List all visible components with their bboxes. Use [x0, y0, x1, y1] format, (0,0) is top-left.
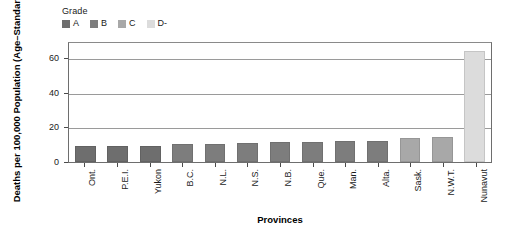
- bar-alta: [367, 141, 388, 162]
- bar-bc: [172, 144, 193, 162]
- bar-slot: [361, 43, 393, 162]
- x-axis-tick-mark: [410, 163, 411, 167]
- legend-swatch-icon: [118, 20, 126, 28]
- legend-item-label: C: [129, 19, 136, 28]
- bar-slot: [199, 43, 231, 162]
- x-axis-tick-mark: [182, 163, 183, 167]
- bar-nunavut: [464, 51, 485, 162]
- x-axis-tick-mark: [150, 163, 151, 167]
- bar-slot: [101, 43, 133, 162]
- legend-swatch-icon: [147, 20, 155, 28]
- x-axis-tick-label: N.S.: [251, 169, 260, 187]
- bar-pei: [107, 146, 128, 162]
- bar-ont: [75, 146, 96, 162]
- x-axis-label-slot: N.S.: [231, 169, 264, 211]
- x-axis-tick-label: Que.: [317, 169, 326, 189]
- legend-swatch-icon: [62, 20, 70, 28]
- bar-sask: [400, 138, 421, 162]
- x-axis-tick-label: Alta.: [382, 169, 391, 187]
- x-axis-tick-mark: [247, 163, 248, 167]
- x-axis-label-slot: Man.: [329, 169, 362, 211]
- x-axis-tick-mark: [313, 163, 314, 167]
- x-axis-title: Provinces: [68, 214, 492, 225]
- bar-man: [335, 141, 356, 162]
- x-axis-tick-label: N.L.: [219, 169, 228, 186]
- x-axis-tick-label: P.E.I.: [121, 169, 130, 190]
- y-axis-tick-label: 40: [37, 89, 59, 98]
- chart-figure: Grade ABCD- Deaths per 100,000 Populatio…: [0, 0, 511, 238]
- y-axis-title: Deaths per 100,000 Population (Age–Stand…: [12, 0, 23, 202]
- y-axis-tick-label: 20: [37, 123, 59, 132]
- x-axis-tick-mark: [443, 163, 444, 167]
- x-axis-tick-mark: [476, 163, 477, 167]
- legend-item-b: B: [90, 19, 107, 28]
- x-axis-label-slot: P.E.I.: [101, 169, 134, 211]
- x-axis-label-slot: Que.: [296, 169, 329, 211]
- bar-slot: [69, 43, 101, 162]
- legend-item-c: C: [118, 19, 136, 28]
- x-axis-label-slot: Ont.: [68, 169, 101, 211]
- bar-yukon: [140, 146, 161, 162]
- bar-nb: [270, 142, 291, 162]
- bar-nwt: [432, 137, 453, 162]
- bar-slot: [134, 43, 166, 162]
- bar-slot: [426, 43, 458, 162]
- y-axis-tick-label: 0: [37, 158, 59, 167]
- legend-swatch-icon: [90, 20, 98, 28]
- x-axis-tick-mark: [345, 163, 346, 167]
- x-axis-label-slot: N.B.: [264, 169, 297, 211]
- x-axis-tick-mark: [378, 163, 379, 167]
- x-axis-tick-label: N.B.: [284, 169, 293, 187]
- x-axis-label-slot: N.L.: [198, 169, 231, 211]
- x-axis-tick-label: Nunavut: [480, 169, 489, 203]
- x-axis-label-slot: B.C.: [166, 169, 199, 211]
- x-axis-label-slot: Yukon: [133, 169, 166, 211]
- legend-items: ABCD-: [62, 19, 302, 28]
- bar-nl: [205, 144, 226, 162]
- plot-area: [68, 42, 492, 163]
- x-axis-label-slot: Sask.: [394, 169, 427, 211]
- bar-slot: [231, 43, 263, 162]
- bar-que: [302, 142, 323, 162]
- x-axis-tick-label: Yukon: [154, 169, 163, 194]
- bar-slot: [394, 43, 426, 162]
- x-axis-label-slot: Nunavut: [459, 169, 492, 211]
- bar-slot: [264, 43, 296, 162]
- bar-ns: [237, 143, 258, 162]
- x-axis-tick-labels: Ont.P.E.I.YukonB.C.N.L.N.S.N.B.Que.Man.A…: [68, 169, 492, 211]
- legend-item-label: D-: [158, 19, 168, 28]
- bar-slot: [459, 43, 491, 162]
- legend-title: Grade: [62, 6, 302, 17]
- x-axis-tick-mark: [84, 163, 85, 167]
- chart-legend: Grade ABCD-: [62, 6, 302, 28]
- x-axis-label-slot: N.W.T.: [427, 169, 460, 211]
- x-axis-tick-label: N.W.T.: [447, 169, 456, 196]
- y-axis-title-container: Deaths per 100,000 Population (Age–Stand…: [0, 0, 34, 175]
- x-axis-tick-label: Man.: [349, 169, 358, 189]
- legend-item-label: A: [73, 19, 79, 28]
- bar-series: [69, 43, 491, 162]
- x-axis-tick-label: B.C.: [186, 169, 195, 187]
- x-axis-label-slot: Alta.: [361, 169, 394, 211]
- bar-slot: [296, 43, 328, 162]
- legend-item-d: D-: [147, 19, 168, 28]
- x-axis-tick-label: Ont.: [88, 169, 97, 186]
- x-axis-tick-label: Sask.: [414, 169, 423, 192]
- x-axis-tick-mark: [117, 163, 118, 167]
- bar-slot: [329, 43, 361, 162]
- bar-slot: [166, 43, 198, 162]
- x-axis-tick-mark: [215, 163, 216, 167]
- x-axis-tick-mark: [280, 163, 281, 167]
- legend-item-a: A: [62, 19, 79, 28]
- legend-item-label: B: [101, 19, 107, 28]
- y-axis-tick-label: 60: [37, 54, 59, 63]
